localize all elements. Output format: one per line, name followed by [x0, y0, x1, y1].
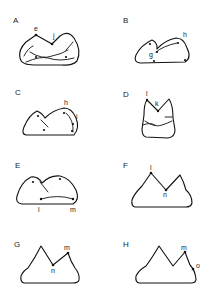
point-l-label: l: [146, 90, 148, 97]
point-e-marker: [35, 34, 38, 37]
panel-g-label: G: [14, 240, 20, 249]
point-o-marker: [192, 268, 195, 271]
panel-f-outline: [132, 173, 192, 207]
point-n-label: n: [163, 191, 167, 198]
point-h-label: h: [183, 31, 187, 38]
point-e-label: e: [34, 25, 38, 32]
panel-c: C h i: [15, 88, 78, 135]
panel-e-outline: [17, 176, 78, 204]
point-m-marker: [72, 198, 74, 200]
point-i-marker: [72, 123, 74, 125]
point-h-marker: [177, 42, 179, 44]
panel-g: G m n: [14, 240, 79, 283]
panel-a-ridge: [66, 42, 73, 50]
point-g-marker: [156, 51, 158, 53]
panel-h-label: H: [123, 240, 129, 249]
cusp-marker: [71, 130, 73, 132]
cusp-marker: [153, 60, 155, 62]
cusp-marker: [35, 56, 37, 58]
point-g-label: g: [149, 51, 153, 59]
point-n-label: n: [51, 267, 55, 274]
cusp-marker: [65, 56, 67, 58]
point-j-marker: [51, 43, 54, 46]
point-m-label: m: [181, 244, 187, 251]
cusp-marker: [59, 178, 61, 180]
point-j-label: j: [52, 32, 55, 40]
point-i-label: i: [76, 113, 78, 120]
panel-c-groove: [66, 113, 73, 132]
point-m-marker: [67, 252, 70, 255]
point-h-label: h: [64, 99, 68, 106]
panel-a-ridge: [26, 58, 74, 63]
panel-b: B h g: [123, 16, 189, 63]
panel-b-label: B: [123, 16, 128, 25]
point-k-label: k: [155, 100, 159, 107]
point-l-marker: [150, 172, 153, 175]
cusp-marker: [149, 43, 151, 45]
panel-e-groove: [40, 182, 48, 192]
point-o-label: o: [196, 262, 200, 269]
point-l-marker: [40, 198, 42, 200]
point-m-label: m: [64, 244, 70, 251]
panel-d-outline: [142, 99, 175, 138]
diagram-canvas: A e j B h g C h i: [0, 0, 210, 297]
panel-a: A e j: [13, 16, 79, 65]
point-m-label: m: [70, 206, 76, 213]
panel-e-groove: [41, 197, 73, 200]
cusp-marker: [43, 129, 45, 131]
point-l-label: l: [150, 164, 152, 171]
panel-f: F l n: [123, 161, 192, 207]
point-n-marker: [52, 264, 55, 267]
point-m-marker: [184, 251, 187, 254]
panel-c-label: C: [15, 88, 21, 97]
panel-h-outline: [136, 246, 196, 283]
panel-g-outline: [21, 246, 79, 283]
point-l-marker: [146, 99, 148, 101]
panel-d: D l k: [123, 90, 175, 138]
point-l-label: l: [38, 206, 40, 213]
panel-e-label: E: [15, 161, 20, 170]
cusp-marker: [37, 115, 39, 117]
panel-h: H m o: [123, 240, 200, 283]
cusp-marker: [184, 59, 186, 61]
panel-a-ridge: [24, 46, 33, 56]
cusp-marker: [32, 181, 34, 183]
panel-c-groove: [41, 120, 48, 127]
point-h-marker: [63, 112, 65, 114]
panel-a-label: A: [13, 16, 19, 25]
point-k-marker: [157, 110, 159, 112]
panel-b-outline: [135, 38, 189, 63]
panel-e: E l m: [15, 161, 77, 213]
panel-f-label: F: [123, 161, 128, 170]
panel-d-label: D: [123, 90, 129, 99]
panel-c-outline: [23, 108, 78, 135]
